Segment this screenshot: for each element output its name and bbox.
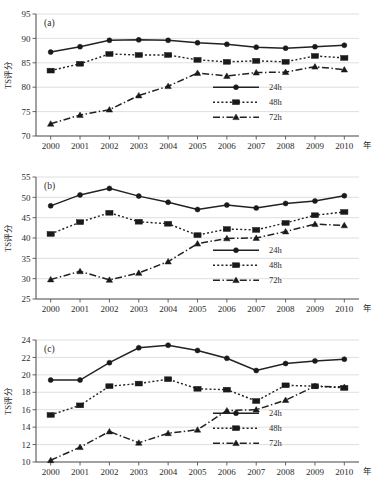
x-tick-label: 2009 (306, 141, 325, 151)
data-point-triangle (77, 444, 83, 450)
data-point-circle (107, 38, 112, 43)
gridlines (36, 340, 359, 462)
x-tick-label: 2003 (130, 467, 149, 477)
y-tick-label: 14 (22, 422, 32, 432)
data-point-triangle (136, 270, 142, 276)
panel-label: (c) (44, 344, 55, 355)
data-point-square (341, 210, 348, 215)
data-point-square (341, 56, 348, 61)
data-point-square (106, 210, 113, 215)
data-point-triangle (282, 228, 288, 234)
data-point-square (165, 377, 172, 382)
data-point-square (47, 413, 54, 418)
data-point-circle (166, 200, 171, 205)
data-point-square (76, 403, 83, 408)
y-tick-label: 18 (22, 387, 32, 397)
y-axis-title: TS评分 (3, 61, 13, 89)
data-point-square (194, 386, 201, 391)
figure-ts-score-trends: 7075808590952000200120022003200420052006… (0, 0, 372, 489)
data-point-circle (312, 44, 317, 49)
x-tick-label: 2006 (218, 467, 237, 477)
data-point-square (253, 399, 260, 404)
data-point-square (106, 52, 113, 57)
y-tick-label: 70 (22, 131, 32, 141)
x-tick-label: 2007 (247, 304, 266, 314)
legend-label-72h: 72h (269, 438, 283, 448)
x-tick-label: 2008 (277, 304, 296, 314)
x-tick-label: 2009 (306, 467, 325, 477)
chart-svg: 2530354045505520002001200220032004200520… (0, 163, 372, 326)
data-point-triangle (106, 428, 112, 434)
chart-svg: 1012141618202224200020012002200320042005… (0, 326, 372, 489)
chart-panel-b: 2530354045505520002001200220032004200520… (0, 163, 372, 326)
data-point-circle (48, 203, 53, 208)
data-point-square (76, 61, 83, 66)
x-tick-label: 2002 (100, 141, 118, 151)
y-tick-label: 24 (22, 335, 32, 345)
data-point-circle (224, 356, 229, 361)
data-point-square (106, 384, 113, 389)
y-tick-label: 22 (22, 353, 31, 363)
x-tick-label: 2008 (277, 467, 296, 477)
legend: 24h48h72h (213, 245, 283, 285)
data-point-circle (195, 40, 200, 45)
data-point-square (47, 68, 54, 73)
data-point-triangle (341, 222, 347, 228)
x-tick-label: 2005 (189, 304, 208, 314)
data-point-triangle (224, 407, 230, 413)
data-point-square (165, 53, 172, 58)
x-tick-label: 2005 (189, 141, 208, 151)
gridlines (36, 177, 359, 299)
y-tick-label: 95 (22, 9, 32, 19)
x-tick-label: 2006 (218, 304, 237, 314)
data-point-circle (342, 357, 347, 362)
y-tick-label: 20 (22, 370, 32, 380)
data-point-circle (234, 411, 239, 416)
data-point-square (223, 227, 230, 232)
x-tick-label: 2004 (159, 467, 178, 477)
data-point-square (232, 426, 239, 431)
data-point-circle (283, 361, 288, 366)
data-point-circle (283, 46, 288, 51)
data-point-circle (166, 38, 171, 43)
y-tick-label: 40 (22, 233, 32, 243)
y-axis: 1012141618202224 (22, 335, 37, 467)
y-axis: 707580859095 (22, 9, 37, 141)
legend-label-24h: 24h (269, 82, 283, 92)
chart-svg: 7075808590952000200120022003200420052006… (0, 0, 372, 163)
legend-label-48h: 48h (269, 423, 283, 433)
data-point-circle (254, 205, 259, 210)
data-point-circle (78, 378, 83, 383)
data-point-circle (107, 186, 112, 191)
x-axis-unit: 年 (363, 466, 372, 476)
data-point-triangle (165, 430, 171, 436)
data-point-triangle (233, 277, 239, 283)
data-point-triangle (233, 114, 239, 120)
x-tick-label: 2000 (42, 304, 61, 314)
y-tick-label: 12 (22, 440, 31, 450)
legend-label-72h: 72h (269, 112, 283, 122)
x-tick-label: 2009 (306, 304, 325, 314)
x-tick-label: 2004 (159, 304, 178, 314)
data-point-square (311, 213, 318, 218)
x-axis: 2000200120022003200420052006200720082009… (36, 299, 372, 314)
data-point-circle (342, 193, 347, 198)
data-point-triangle (194, 427, 200, 433)
y-tick-label: 16 (22, 405, 32, 415)
x-tick-label: 2008 (277, 141, 296, 151)
x-axis: 2000200120022003200420052006200720082009… (36, 462, 372, 477)
y-tick-label: 55 (22, 172, 32, 182)
series-72h (47, 383, 347, 463)
data-point-circle (78, 44, 83, 49)
data-point-circle (136, 37, 141, 42)
panel-label: (b) (44, 181, 55, 192)
x-axis: 2000200120022003200420052006200720082009… (36, 136, 372, 151)
y-tick-label: 75 (22, 107, 32, 117)
data-point-circle (48, 50, 53, 55)
series-24h (48, 186, 347, 212)
legend: 24h48h72h (213, 82, 283, 122)
data-point-circle (107, 360, 112, 365)
legend-label-48h: 48h (269, 260, 283, 270)
x-tick-label: 2004 (159, 141, 178, 151)
data-point-square (76, 220, 83, 225)
